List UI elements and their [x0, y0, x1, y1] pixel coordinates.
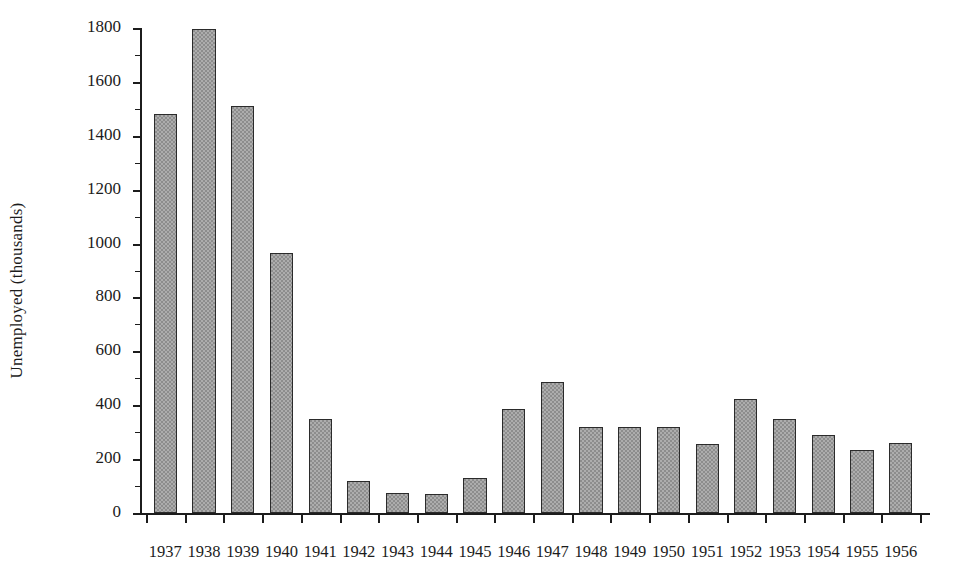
x-tick: [340, 515, 342, 523]
x-tick: [920, 515, 922, 523]
bar: [347, 481, 370, 513]
bar-chart: Unemployed (thousands) 02004006008001000…: [0, 0, 962, 581]
y-tick-label: 1200: [87, 179, 121, 199]
x-tick-label: 1952: [727, 542, 766, 562]
bar: [773, 419, 796, 513]
x-tick: [572, 515, 574, 523]
x-tick: [262, 515, 264, 523]
bar: [734, 399, 757, 514]
x-axis-line: [140, 513, 930, 515]
y-minor-tick: [135, 378, 141, 379]
bar: [889, 443, 912, 513]
x-tick-label: 1944: [417, 542, 456, 562]
bar: [270, 253, 293, 513]
x-tick-label: 1946: [494, 542, 533, 562]
y-minor-tick: [135, 486, 141, 487]
x-tick-label: 1941: [301, 542, 340, 562]
bar: [309, 419, 332, 513]
x-tick: [146, 515, 148, 523]
x-tick-label: 1942: [340, 542, 379, 562]
x-tick: [843, 515, 845, 523]
bar: [502, 409, 525, 513]
x-tick-label: 1947: [533, 542, 572, 562]
y-tick: 1600: [133, 82, 142, 84]
y-minor-tick: [135, 109, 141, 110]
y-tick: 400: [133, 405, 142, 407]
x-tick-label: 1943: [378, 542, 417, 562]
y-tick-label: 800: [96, 286, 122, 306]
x-tick-label: 1953: [765, 542, 804, 562]
x-tick-label: 1940: [262, 542, 301, 562]
x-tick: [301, 515, 303, 523]
x-tick: [610, 515, 612, 523]
x-tick: [727, 515, 729, 523]
y-tick: 200: [133, 459, 142, 461]
x-tick: [688, 515, 690, 523]
x-tick-label: 1938: [185, 542, 224, 562]
y-tick-label: 400: [96, 394, 122, 414]
x-tick: [804, 515, 806, 523]
bar: [231, 106, 254, 513]
bar: [696, 444, 719, 513]
bar: [812, 435, 835, 513]
x-tick: [417, 515, 419, 523]
x-tick-label: 1949: [610, 542, 649, 562]
bar: [463, 478, 486, 513]
y-tick: 1000: [133, 244, 142, 246]
x-tick: [185, 515, 187, 523]
y-minor-tick: [135, 55, 141, 56]
x-tick-label: 1954: [804, 542, 843, 562]
bar: [154, 114, 177, 513]
bar: [618, 427, 641, 513]
y-tick: 1200: [133, 190, 142, 192]
y-tick-label: 1600: [87, 71, 121, 91]
x-tick: [456, 515, 458, 523]
y-tick-label: 1000: [87, 233, 121, 253]
y-minor-tick: [135, 432, 141, 433]
y-minor-tick: [135, 217, 141, 218]
bar: [386, 493, 409, 513]
y-tick: 0: [133, 513, 142, 515]
y-tick-label: 1800: [87, 17, 121, 37]
bar: [579, 427, 602, 513]
x-tick: [649, 515, 651, 523]
x-tick-label: 1945: [456, 542, 495, 562]
x-tick: [765, 515, 767, 523]
y-tick-label: 0: [113, 502, 122, 522]
x-tick-label: 1937: [146, 542, 185, 562]
y-tick: 800: [133, 297, 142, 299]
y-minor-tick: [135, 271, 141, 272]
y-tick: 600: [133, 351, 142, 353]
bar: [541, 382, 564, 513]
bar: [850, 450, 873, 513]
x-tick-label: 1956: [881, 542, 920, 562]
y-minor-tick: [135, 324, 141, 325]
x-tick-label: 1951: [688, 542, 727, 562]
x-tick-label: 1948: [572, 542, 611, 562]
x-tick-label: 1950: [649, 542, 688, 562]
x-tick: [378, 515, 380, 523]
y-tick-label: 600: [96, 340, 122, 360]
bar: [192, 29, 215, 513]
y-tick-label: 1400: [87, 125, 121, 145]
y-minor-tick: [135, 163, 141, 164]
x-tick: [881, 515, 883, 523]
x-tick-label: 1955: [843, 542, 882, 562]
x-tick-label: 1939: [223, 542, 262, 562]
y-tick-label: 200: [96, 448, 122, 468]
bar: [425, 494, 448, 513]
y-axis-title: Unemployed (thousands): [0, 0, 34, 581]
x-tick: [223, 515, 225, 523]
y-tick: 1400: [133, 136, 142, 138]
x-tick: [533, 515, 535, 523]
bar: [657, 427, 680, 513]
x-tick: [494, 515, 496, 523]
plot-area: 020040060080010001200140016001800 193719…: [140, 20, 930, 520]
y-tick: 1800: [133, 28, 142, 30]
